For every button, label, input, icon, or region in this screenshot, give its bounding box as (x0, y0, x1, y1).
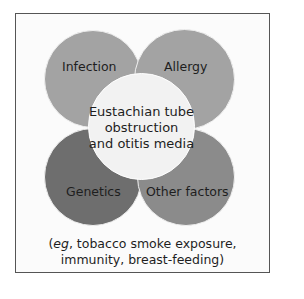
caption-line2: immunity, breast-feeding) (15, 252, 270, 268)
caption-eg: eg (53, 236, 69, 251)
caption-line1-rest: , tobacco smoke exposure, (69, 236, 237, 251)
label-allergy: Allergy (164, 59, 207, 74)
center-label-line1: Eustachian tube (88, 104, 195, 120)
caption-line1: (eg, tobacco smoke exposure, (15, 236, 270, 252)
label-other-factors: Other factors (146, 184, 229, 199)
center-label: Eustachian tube obstruction and otitis m… (88, 104, 195, 152)
label-genetics: Genetics (66, 184, 121, 199)
center-label-line2: obstruction (88, 120, 195, 136)
label-infection: Infection (62, 59, 117, 74)
caption: (eg, tobacco smoke exposure, immunity, b… (15, 236, 270, 268)
center-label-line3: and otitis media (88, 136, 195, 152)
